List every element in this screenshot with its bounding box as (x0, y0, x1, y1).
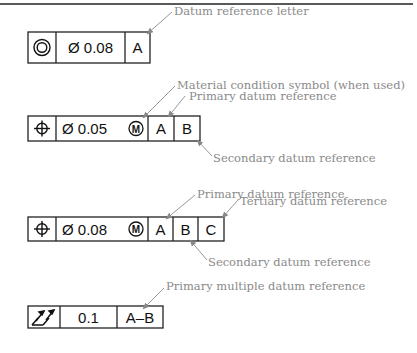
datum-letter: A (132, 39, 142, 56)
total-runout-icon (32, 310, 54, 325)
maximum-material-condition-icon: M (129, 222, 143, 236)
leader-secondary-datum (190, 240, 207, 260)
datum-letter-secondary: B (182, 120, 192, 137)
frame-concentricity: Ø 0.08 A (28, 32, 150, 63)
leader-secondary-datum (197, 140, 212, 156)
callout-tertiary-datum: Tertiary datum reference (240, 194, 387, 208)
callout-secondary-datum: Secondary datum reference (208, 255, 371, 269)
datum-letter-primary: A (155, 221, 165, 238)
tolerance-value: Ø 0.08 (62, 221, 107, 238)
concentricity-icon (34, 40, 50, 56)
feature-control-frame-diagram: Ø 0.08 A Datum reference letter Ø 0.05 M… (0, 0, 417, 353)
datum-letter-multiple: A–B (126, 309, 154, 326)
callout-datum-reference-letter: Datum reference letter (174, 4, 309, 18)
leader-datum-reference (147, 12, 172, 34)
svg-text:M: M (132, 224, 140, 235)
callout-primary-datum: Primary datum reference (189, 89, 337, 103)
callout-secondary-datum: Secondary datum reference (213, 151, 376, 165)
frame-border (28, 217, 224, 241)
datum-letter-secondary: B (180, 221, 190, 238)
position-icon (34, 121, 50, 137)
leader-primary-datum (166, 195, 195, 219)
leader-tertiary-datum (222, 200, 238, 218)
frame-position-abc: Ø 0.08 M A B C (28, 217, 224, 241)
datum-letter-primary: A (156, 120, 166, 137)
svg-text:M: M (132, 124, 140, 135)
leader-primary-datum (168, 96, 185, 117)
maximum-material-condition-icon: M (129, 122, 143, 136)
tolerance-value: Ø 0.08 (68, 39, 113, 56)
datum-letter-tertiary: C (206, 221, 217, 238)
tolerance-value: Ø 0.05 (62, 120, 107, 137)
leader-material-condition (143, 86, 175, 118)
frame-position-ab: Ø 0.05 M A B (28, 116, 200, 141)
tolerance-value: 0.1 (78, 309, 99, 326)
position-icon (34, 221, 50, 237)
callout-primary-multiple-datum: Primary multiple datum reference (166, 279, 365, 293)
frame-runout: 0.1 A–B (28, 306, 163, 328)
